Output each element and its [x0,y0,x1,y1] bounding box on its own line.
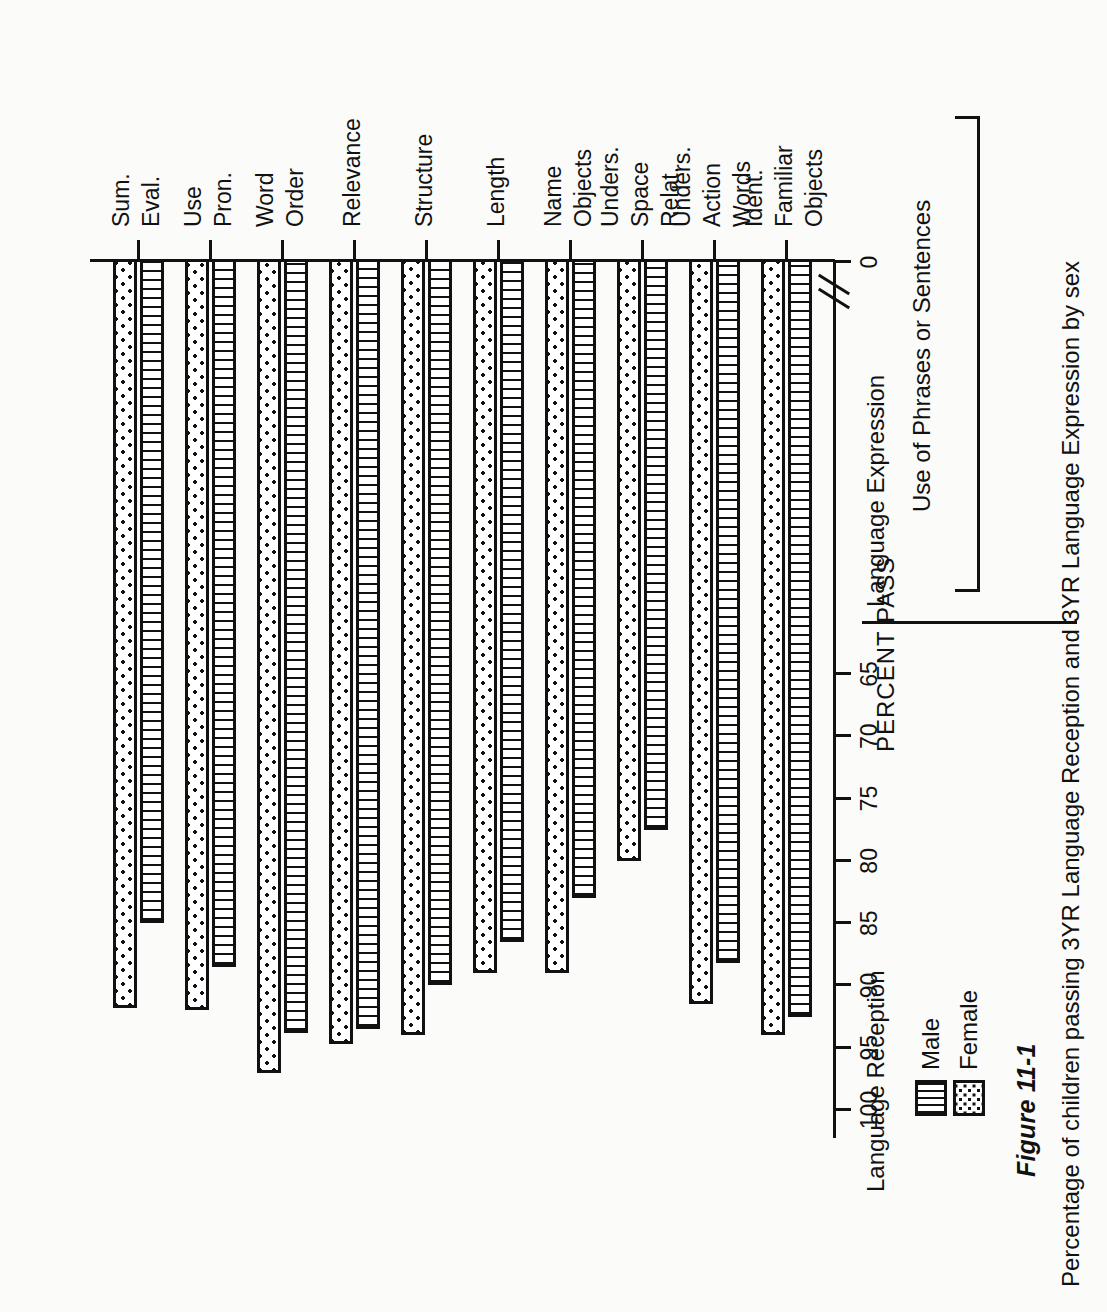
value-tick-80 [836,859,851,862]
bar-male-0 [788,259,812,1017]
category-label-line: Sum. [106,173,136,227]
phrases-group-bracket [955,116,980,592]
rotated-figure-stage: Figure 11-1 Percentage of children passi… [0,0,1107,1312]
category-label-4: Length [481,157,511,227]
category-label-2: Unders.SpaceRelat. [595,146,685,227]
bar-male-3 [572,259,596,898]
value-axis-caption: PERCENT PASS [872,557,900,752]
legend-item-female: Female [953,990,985,1116]
value-tick-label-85: 85 [856,910,883,936]
value-tick-85 [836,921,851,924]
legend: Male Female [915,990,991,1116]
value-tick-65 [836,672,851,675]
category-label-line: Relat. [655,146,685,227]
value-tick-75 [836,797,851,800]
bar-female-3 [545,259,569,973]
legend-label-male: Male [917,1018,945,1070]
category-label-line: Space [625,146,655,227]
bar-female-8 [185,259,209,1010]
category-label-8: UsePron. [178,172,238,227]
legend-label-female: Female [955,990,983,1070]
category-label-7: WordOrder [250,168,310,227]
category-label-line: Unders. [595,146,625,227]
bar-male-9 [140,259,164,923]
value-axis-line [833,260,836,1138]
legend-swatch-female-icon [953,1080,985,1116]
category-label-line: Action [697,146,727,227]
legend-swatch-male-icon [915,1080,947,1116]
value-tick-95 [836,1046,851,1049]
group-heading-use-of-phrases: Use of Phrases or Sentences [908,200,936,512]
category-label-line: Relevance [337,118,367,227]
figure-number: Figure 11-1 [1012,1043,1041,1177]
bar-male-1 [716,259,740,963]
bar-female-0 [761,259,785,1035]
bar-female-7 [257,259,281,1073]
category-label-line: Word [250,168,280,227]
bar-male-2 [644,259,668,830]
bar-male-6 [356,259,380,1029]
value-tick-label-0: 0 [856,256,883,269]
legend-item-male: Male [915,990,947,1116]
category-label-line: Structure [409,134,439,227]
figure-subtitle: Percentage of children passing 3YR Langu… [1057,261,1085,1287]
plot-area: 100959085807570650 Ident.FamiliarObjects… [50,0,850,1312]
category-label-line: Objects [799,145,829,227]
category-label-line: Order [280,168,310,227]
category-label-line: Eval. [136,173,166,227]
value-tick-label-75: 75 [856,786,883,812]
category-label-6: Relevance [337,118,367,227]
bar-male-8 [212,259,236,967]
value-tick-0 [836,260,851,263]
bar-female-5 [401,259,425,1035]
category-label-line: Name [538,149,568,227]
value-tick-label-90: 90 [856,973,883,999]
category-label-line: Words [727,146,757,227]
bar-female-2 [617,259,641,861]
bar-male-5 [428,259,452,985]
category-label-line: Use [178,172,208,227]
bar-male-7 [284,259,308,1033]
value-tick-90 [836,983,851,986]
value-tick-70 [836,734,851,737]
bar-female-9 [113,259,137,1008]
category-label-9: Sum.Eval. [106,173,166,227]
category-label-line: Objects [568,149,598,227]
category-label-3: NameObjects [538,149,598,227]
category-label-line: Pron. [208,172,238,227]
group-heading-language-reception: Language Reception [862,970,890,1192]
axis-break-icon [818,266,852,312]
value-tick-label-80: 80 [856,848,883,874]
category-label-line: Length [481,157,511,227]
value-tick-label-100: 100 [856,1091,883,1129]
category-label-line: Familiar [769,145,799,227]
bar-female-4 [473,259,497,973]
value-tick-100 [836,1108,851,1111]
bar-female-1 [689,259,713,1004]
value-tick-label-95: 95 [856,1035,883,1061]
bar-female-6 [329,259,353,1044]
category-label-5: Structure [409,134,439,227]
bar-male-4 [500,259,524,942]
